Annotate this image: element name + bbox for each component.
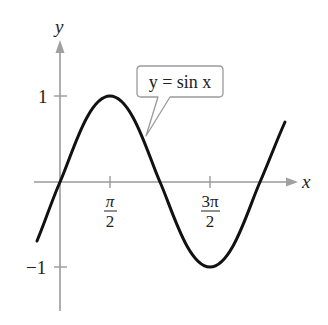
sine-graph: y x 1 −1 π 2 3π 2 y = sin x bbox=[0, 0, 328, 325]
x-axis-arrow-icon bbox=[286, 178, 298, 187]
fraction-numerator: 3π bbox=[201, 192, 219, 211]
y-axis-label: y bbox=[53, 16, 64, 37]
x-axis-label: x bbox=[301, 171, 311, 192]
fraction-numerator: π bbox=[106, 192, 115, 211]
function-callout: y = sin x bbox=[137, 66, 223, 136]
x-tick-label-3pi-over-2: 3π 2 bbox=[201, 192, 220, 231]
y-axis-arrow-icon bbox=[56, 40, 65, 53]
y-tick-label-1: 1 bbox=[38, 86, 48, 107]
callout-label: y = sin x bbox=[149, 72, 212, 92]
fraction-denominator: 2 bbox=[206, 212, 215, 231]
y-tick-label-neg-1: −1 bbox=[26, 257, 46, 278]
x-tick-label-pi-over-2: π 2 bbox=[104, 192, 117, 231]
fraction-denominator: 2 bbox=[106, 212, 115, 231]
